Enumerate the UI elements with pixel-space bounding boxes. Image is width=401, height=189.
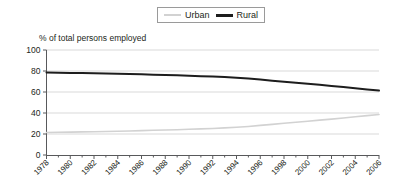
svg-text:0: 0 bbox=[36, 150, 41, 160]
svg-text:20: 20 bbox=[31, 129, 41, 139]
chart-container: Urban Rural % of total persons employed … bbox=[0, 0, 401, 189]
svg-text:1978: 1978 bbox=[32, 158, 51, 177]
chart-plot: 020406080100 197819801982198419861988199… bbox=[0, 0, 401, 189]
svg-text:1980: 1980 bbox=[56, 158, 75, 177]
svg-text:60: 60 bbox=[31, 87, 41, 97]
grid-lines bbox=[47, 50, 380, 134]
svg-text:2004: 2004 bbox=[341, 158, 360, 177]
series-lines bbox=[47, 72, 380, 132]
svg-text:1988: 1988 bbox=[151, 158, 170, 177]
svg-text:1986: 1986 bbox=[127, 158, 146, 177]
svg-text:80: 80 bbox=[31, 66, 41, 76]
svg-text:100: 100 bbox=[26, 45, 40, 55]
svg-text:2002: 2002 bbox=[317, 158, 336, 177]
svg-text:1984: 1984 bbox=[103, 158, 122, 177]
svg-text:2006: 2006 bbox=[364, 158, 383, 177]
svg-text:2000: 2000 bbox=[293, 158, 312, 177]
y-axis-ticks: 020406080100 bbox=[26, 45, 46, 160]
x-axis-tick-labels: 1978198019821984198619881990199219941996… bbox=[32, 158, 384, 177]
svg-text:1982: 1982 bbox=[79, 158, 98, 177]
svg-text:1990: 1990 bbox=[174, 158, 193, 177]
svg-text:40: 40 bbox=[31, 108, 41, 118]
svg-text:1998: 1998 bbox=[269, 158, 288, 177]
svg-text:1996: 1996 bbox=[246, 158, 265, 177]
svg-text:1994: 1994 bbox=[222, 158, 241, 177]
svg-text:1992: 1992 bbox=[198, 158, 217, 177]
